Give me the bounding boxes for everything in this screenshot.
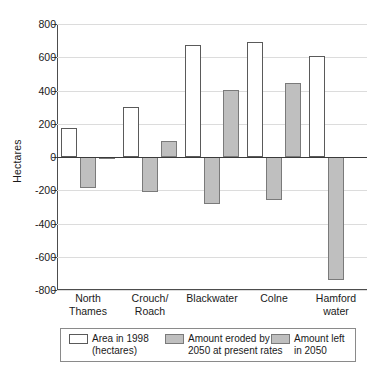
legend-label: Amount eroded by2050 at present rates (188, 333, 283, 357)
legend-item[interactable]: Amount leftin 2050 (271, 333, 345, 357)
y-axis-tick-label: -400 (10, 218, 56, 229)
bar (80, 157, 96, 188)
y-axis-tick-label: -800 (10, 285, 56, 296)
bar (123, 107, 139, 157)
bar (223, 90, 239, 157)
bar (247, 42, 263, 157)
x-axis-label: NorthThames (57, 292, 119, 318)
x-axis-label: Blackwater (181, 292, 243, 305)
legend-label: Amount leftin 2050 (294, 333, 345, 357)
bar (185, 45, 201, 157)
y-axis-tick-label: 200 (10, 119, 56, 130)
bar (161, 141, 177, 157)
bar (266, 157, 282, 200)
y-axis-tick-label: 400 (10, 85, 56, 96)
y-axis-tick-label: 0 (10, 152, 56, 163)
x-axis-labels: NorthThamesCrouch/RoachBlackwaterColneHa… (57, 292, 367, 322)
legend-label: Area in 1998(hectares) (92, 333, 149, 357)
legend-swatch-icon (69, 334, 88, 344)
plot-area: 8006004002000-200-400-600-800 (57, 24, 367, 290)
x-axis-label: Hamfordwater (305, 292, 367, 318)
legend-item[interactable]: Area in 1998(hectares) (69, 333, 149, 357)
zero-line (57, 157, 367, 158)
y-axis-tick-label: -200 (10, 185, 56, 196)
y-axis-tick-label: -600 (10, 252, 56, 263)
y-axis-tick-label: 600 (10, 52, 56, 63)
bar (61, 128, 77, 157)
chart-legend: Area in 1998(hectares)Amount eroded by20… (60, 328, 356, 362)
y-axis-tick-label: 800 (10, 19, 56, 30)
bar-chart: Hectares 8006004002000-200-400-600-800 N… (0, 0, 376, 370)
gridline (57, 290, 367, 291)
bar (142, 157, 158, 192)
x-axis-label: Colne (243, 292, 305, 305)
legend-swatch-icon (271, 334, 290, 344)
legend-swatch-icon (165, 334, 184, 344)
bar (328, 157, 344, 280)
bar (309, 56, 325, 157)
bar (285, 83, 301, 157)
x-axis-label: Crouch/Roach (119, 292, 181, 318)
bar (204, 157, 220, 204)
legend-item[interactable]: Amount eroded by2050 at present rates (165, 333, 283, 357)
